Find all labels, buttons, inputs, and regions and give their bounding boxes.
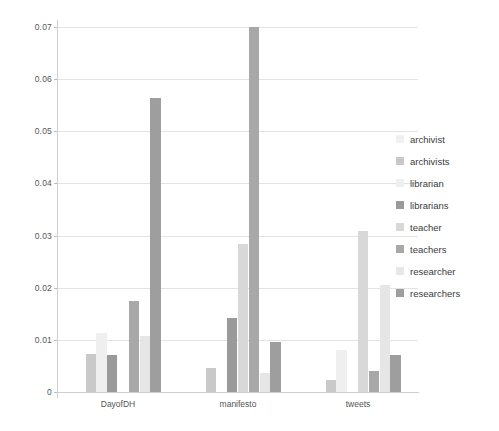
y-axis-tick-labels: 00.010.020.030.040.050.060.07 bbox=[0, 0, 52, 431]
legend-swatch-icon bbox=[396, 289, 404, 297]
bar bbox=[238, 244, 248, 392]
legend-item-label: librarian bbox=[410, 178, 444, 189]
x-axis-tick-label: manifesto bbox=[220, 399, 257, 409]
legend-item-label: researcher bbox=[410, 266, 455, 277]
x-axis-tick-label: DayofDH bbox=[101, 399, 135, 409]
legend-swatch-icon bbox=[396, 223, 404, 231]
legend-item-librarians[interactable]: librarians bbox=[396, 194, 499, 216]
y-axis-tick-label: 0.06 bbox=[35, 74, 52, 84]
plot-area bbox=[58, 27, 418, 392]
bar bbox=[358, 231, 368, 392]
legend-item-label: teachers bbox=[410, 244, 446, 255]
bar bbox=[96, 333, 106, 392]
chart-legend: archivistarchivistslibrarianlibrarianste… bbox=[396, 128, 499, 304]
bar bbox=[380, 285, 390, 392]
bar-chart: 00.010.020.030.040.050.060.07 DayofDHman… bbox=[0, 0, 499, 431]
legend-item-label: archivist bbox=[410, 134, 445, 145]
legend-item-librarian[interactable]: librarian bbox=[396, 172, 499, 194]
bar bbox=[86, 354, 96, 392]
bar bbox=[107, 355, 117, 392]
y-axis-tick-label: 0 bbox=[47, 387, 52, 397]
legend-swatch-icon bbox=[396, 201, 404, 209]
legend-swatch-icon bbox=[396, 157, 404, 165]
y-axis-tick-label: 0.07 bbox=[35, 22, 52, 32]
legend-item-label: librarians bbox=[410, 200, 449, 211]
gridline bbox=[58, 79, 418, 80]
gridline bbox=[58, 183, 418, 184]
y-axis-tick-label: 0.05 bbox=[35, 126, 52, 136]
legend-item-archivist[interactable]: archivist bbox=[396, 128, 499, 150]
legend-swatch-icon bbox=[396, 267, 404, 275]
legend-item-label: researchers bbox=[410, 288, 460, 299]
y-axis-tick-label: 0.03 bbox=[35, 231, 52, 241]
bar bbox=[336, 350, 346, 392]
bar bbox=[249, 27, 259, 392]
gridline bbox=[58, 27, 418, 28]
bar bbox=[206, 368, 216, 392]
legend-item-researchers[interactable]: researchers bbox=[396, 282, 499, 304]
bar bbox=[150, 98, 160, 392]
legend-item-researcher[interactable]: researcher bbox=[396, 260, 499, 282]
legend-item-teachers[interactable]: teachers bbox=[396, 238, 499, 260]
legend-swatch-icon bbox=[396, 245, 404, 253]
y-axis-tick-label: 0.02 bbox=[35, 283, 52, 293]
y-axis-tick-label: 0.01 bbox=[35, 335, 52, 345]
bar bbox=[227, 318, 237, 392]
bar bbox=[129, 301, 139, 392]
bar bbox=[390, 355, 400, 392]
x-axis-line bbox=[57, 392, 419, 393]
legend-item-label: teacher bbox=[410, 222, 442, 233]
bar bbox=[260, 373, 270, 392]
legend-swatch-icon bbox=[396, 135, 404, 143]
bar bbox=[140, 336, 150, 392]
legend-item-label: archivists bbox=[410, 156, 450, 167]
legend-item-archivists[interactable]: archivists bbox=[396, 150, 499, 172]
legend-swatch-icon bbox=[396, 179, 404, 187]
legend-item-teacher[interactable]: teacher bbox=[396, 216, 499, 238]
bar bbox=[326, 380, 336, 393]
y-axis-tick-label: 0.04 bbox=[35, 178, 52, 188]
bar bbox=[270, 342, 280, 392]
gridline bbox=[58, 131, 418, 132]
x-axis-tick-label: tweets bbox=[346, 399, 371, 409]
bar bbox=[369, 371, 379, 392]
